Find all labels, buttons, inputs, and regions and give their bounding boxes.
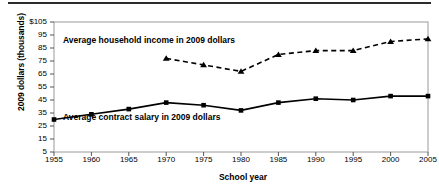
data-point-marker: [52, 117, 57, 122]
data-point-marker: [351, 98, 356, 103]
line-chart: 2009 dollars (thousands) $10595857565554…: [0, 0, 439, 190]
data-point-marker: [164, 100, 169, 105]
plot-area: [0, 0, 439, 190]
data-point-marker: [388, 94, 393, 99]
data-point-marker: [426, 94, 431, 99]
series-label-household-income: Average household income in 2009 dollars: [63, 35, 235, 45]
series-label-contract-salary: Average contract salary in 2009 dollars: [63, 112, 221, 122]
data-point-marker: [239, 108, 244, 113]
data-point-marker: [201, 103, 206, 108]
data-point-marker: [314, 96, 319, 101]
data-point-marker: [276, 100, 281, 105]
data-point-marker: [127, 107, 132, 112]
x-axis-title: School year: [55, 172, 431, 182]
